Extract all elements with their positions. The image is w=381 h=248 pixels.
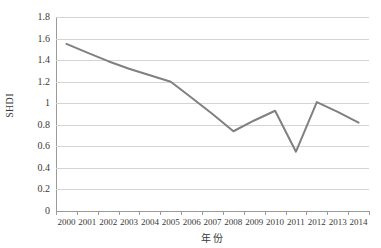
series-line-shdi xyxy=(66,44,358,152)
x-axis-tick-label: 2001 xyxy=(78,215,96,229)
x-axis-tick-label: 2008 xyxy=(224,215,242,229)
x-axis-tick-label: 2002 xyxy=(99,215,117,229)
y-axis-tick-label: 1.6 xyxy=(38,34,51,44)
y-axis-tick-label: 0.2 xyxy=(38,184,51,194)
y-axis-tick-label: 0.4 xyxy=(38,163,51,173)
x-axis-tick-label: 2006 xyxy=(183,215,201,229)
x-axis-tick-label: 2013 xyxy=(329,215,347,229)
x-axis-tick-labels: 2000200120022003200420052006200720082009… xyxy=(56,215,369,229)
y-axis-tick-label: 1.2 xyxy=(38,77,51,87)
x-axis-tick-label: 2011 xyxy=(287,215,305,229)
x-axis-tick-label: 2005 xyxy=(162,215,180,229)
x-axis-tick-label: 2014 xyxy=(350,215,368,229)
x-axis-tick-label: 2009 xyxy=(245,215,263,229)
y-axis-tick-label: 0.6 xyxy=(38,141,51,151)
line-chart: SHDI 00.20.40.60.811.21.41.61.8 20002001… xyxy=(0,0,381,248)
y-axis-title: SHDI xyxy=(0,0,18,211)
y-axis-title-label: SHDI xyxy=(4,93,15,118)
y-axis-tick-labels: 00.20.40.60.811.21.41.61.8 xyxy=(18,17,54,211)
x-axis-tick-label: 2000 xyxy=(57,215,75,229)
x-axis-tick-label: 2004 xyxy=(141,215,159,229)
plot-area xyxy=(56,17,369,211)
y-axis-tick-label: 1.8 xyxy=(38,12,51,22)
y-axis-tick-label: 1.4 xyxy=(38,55,51,65)
x-axis-tick-label: 2012 xyxy=(308,215,326,229)
x-axis-tick-label: 2010 xyxy=(266,215,284,229)
y-axis-tick-label: 0.8 xyxy=(38,120,51,130)
y-axis-tick-label: 1 xyxy=(45,98,50,108)
series-layer xyxy=(56,17,369,211)
y-axis-tick-label: 0 xyxy=(45,206,50,216)
x-axis-tick-label: 2007 xyxy=(204,215,222,229)
x-axis-tick-label: 2003 xyxy=(120,215,138,229)
x-axis-tick xyxy=(369,211,370,215)
x-axis-title: 年份 xyxy=(56,230,369,245)
